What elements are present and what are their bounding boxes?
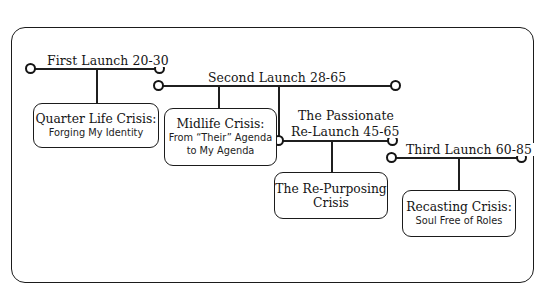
crisis-subtitle-line: to My Agenda bbox=[169, 145, 272, 158]
passionate-relaunch-label-line1: The Passionate bbox=[296, 109, 396, 122]
crisis-subtitle-line: From “Their” Agenda bbox=[169, 132, 272, 145]
third-launch-start-node[interactable] bbox=[386, 152, 397, 163]
crisis-title-quarter-life: Quarter Life Crisis: bbox=[36, 112, 157, 126]
third-launch-track bbox=[393, 157, 519, 159]
second-launch-to-midlife-connector bbox=[218, 85, 220, 109]
crisis-subtitle-line: Forging My Identity bbox=[49, 127, 144, 140]
diagram-canvas: First Launch 20-30 Second Launch 28-65 T… bbox=[0, 0, 549, 306]
crisis-box-midlife[interactable]: Midlife Crisis: From “Their” Agenda to M… bbox=[164, 108, 277, 166]
crisis-subtitle-re-purposing: Crisis bbox=[313, 196, 349, 210]
crisis-subtitle-quarter-life: Forging My Identity bbox=[49, 127, 144, 140]
second-launch-track bbox=[160, 85, 394, 87]
passionate-relaunch-label-line2: Re-Launch 45-65 bbox=[289, 125, 402, 138]
crisis-subtitle-midlife: From “Their” Agenda to My Agenda bbox=[169, 132, 272, 157]
first-launch-track bbox=[31, 68, 155, 70]
passionate-relaunch-to-repurposing-connector bbox=[331, 140, 333, 173]
third-launch-to-recasting-connector bbox=[458, 157, 460, 191]
crisis-subtitle-recasting: Soul Free of Roles bbox=[416, 215, 503, 228]
crisis-title-recasting: Recasting Crisis: bbox=[406, 200, 512, 214]
second-launch-to-passionate-relaunch-connector bbox=[278, 85, 280, 136]
second-launch-start-node[interactable] bbox=[153, 80, 164, 91]
first-launch-start-node[interactable] bbox=[25, 63, 36, 74]
crisis-subtitle-line: Soul Free of Roles bbox=[416, 215, 503, 228]
third-launch-label: Third Launch 60-85 bbox=[404, 143, 534, 156]
passionate-relaunch-track bbox=[283, 140, 391, 142]
first-launch-label: First Launch 20-30 bbox=[45, 54, 171, 67]
crisis-box-recasting[interactable]: Recasting Crisis: Soul Free of Roles bbox=[402, 190, 516, 237]
second-launch-label: Second Launch 28-65 bbox=[206, 71, 348, 84]
crisis-title-re-purposing: The Re-Purposing bbox=[275, 182, 386, 196]
first-launch-to-quarter-life-connector bbox=[96, 68, 98, 104]
crisis-title-midlife: Midlife Crisis: bbox=[177, 117, 265, 131]
second-launch-end-node[interactable] bbox=[390, 80, 401, 91]
crisis-box-re-purposing[interactable]: The Re-Purposing Crisis bbox=[274, 172, 388, 219]
crisis-box-quarter-life[interactable]: Quarter Life Crisis: Forging My Identity bbox=[33, 103, 159, 148]
